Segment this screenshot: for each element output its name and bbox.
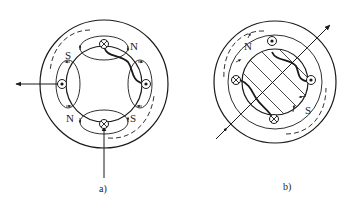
- pole-label-b-lower-right: S: [305, 104, 311, 116]
- conductor-top-cross: [100, 40, 109, 49]
- conductor-left-dot: [58, 80, 67, 89]
- pole-label-a-upper-left: S: [65, 49, 71, 61]
- figure-canvas: S N N S a): [0, 0, 349, 207]
- pole-label-a-upper-right: N: [130, 40, 138, 52]
- winding-connection: [104, 44, 144, 84]
- panel-a: [16, 20, 168, 178]
- conductor-b-right-dot: [307, 76, 316, 85]
- conductor-b-top-dot: [268, 37, 277, 46]
- conductor-right-dot: [142, 80, 151, 89]
- stator-inner-ring: [66, 46, 142, 122]
- conductor-b-left-cross: [232, 76, 241, 85]
- caption-b: b): [283, 181, 291, 193]
- pole-label-b-upper-left: N: [244, 40, 252, 52]
- pole-label-a-lower-right: S: [130, 112, 136, 124]
- pole-label-a-lower-left: N: [66, 112, 74, 124]
- conductor-bottom-cross: [100, 120, 109, 129]
- conductor-b-bottom-cross: [270, 115, 279, 124]
- caption-a: a): [99, 183, 107, 195]
